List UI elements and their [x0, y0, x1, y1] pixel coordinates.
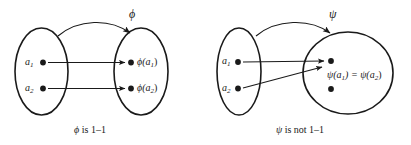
psi-map-arc-arrow	[256, 22, 330, 36]
psi-mapping-arrow-a2	[243, 67, 322, 88]
psi-shared-mid: ) = ψ(a	[345, 69, 375, 80]
psi-codomain-point-unmapped	[328, 86, 334, 92]
phi-codomain-element-image-a2: ϕ(a2)	[137, 83, 157, 95]
phi-domain-point-a2	[40, 86, 46, 92]
phi-domain-a2-subscript: 2	[30, 87, 34, 95]
psi-domain-a1-subscript: 1	[227, 60, 231, 68]
phi-caption-text: is 1–1	[79, 124, 106, 135]
psi-codomain-point-shared-image	[328, 58, 334, 64]
phi-image-a1-base: ϕ(a	[137, 56, 151, 67]
phi-map-arc-arrow	[58, 22, 130, 36]
psi-shared-tail: )	[378, 69, 381, 80]
phi-image-a2-tail: )	[154, 82, 157, 93]
phi-image-a1-tail: )	[154, 56, 157, 67]
phi-codomain-element-image-a1: ϕ(a1)	[137, 57, 157, 69]
phi-codomain-point-image-a1	[128, 60, 134, 66]
psi-map-label: ψ	[329, 8, 336, 20]
psi-shared-left: ψ(a	[327, 69, 342, 80]
phi-domain-a1-subscript: 1	[30, 61, 34, 69]
psi-caption: ψ is not 1–1	[230, 125, 370, 135]
psi-domain-ellipse	[217, 28, 261, 115]
injectivity-diagram-figure: ϕ a1 a2 ϕ(a1) ϕ(a2) ϕ is 1–1 ψ a1 a2 ψ(a…	[0, 0, 411, 145]
phi-panel-graphics	[15, 22, 168, 115]
psi-shared-image-label: ψ(a1) = ψ(a2)	[327, 70, 382, 82]
phi-image-a2-base: ϕ(a	[137, 82, 151, 93]
psi-mapping-arrow-a1	[243, 61, 324, 62]
phi-domain-point-a1	[40, 60, 46, 66]
phi-codomain-ellipse	[114, 28, 168, 115]
psi-domain-a2-subscript: 2	[227, 87, 231, 95]
phi-map-label: ϕ	[129, 8, 135, 20]
phi-domain-element-a1: a1	[25, 57, 34, 69]
psi-domain-element-a2: a2	[222, 83, 231, 95]
psi-caption-text: is not 1–1	[282, 124, 324, 135]
phi-caption: ϕ is 1–1	[0, 125, 180, 135]
phi-codomain-point-image-a2	[128, 86, 134, 92]
psi-domain-point-a1	[235, 59, 241, 65]
psi-domain-point-a2	[235, 86, 241, 92]
psi-domain-element-a1: a1	[222, 56, 231, 68]
phi-domain-ellipse	[15, 28, 68, 115]
phi-domain-element-a2: a2	[25, 83, 34, 95]
